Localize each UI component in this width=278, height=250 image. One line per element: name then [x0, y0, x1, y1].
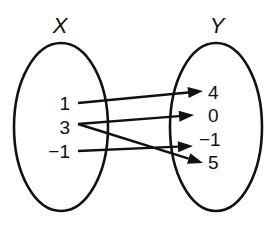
arrowhead-icon	[178, 141, 193, 152]
mapping-arrows	[78, 87, 203, 164]
domain-elements: 1 3 −1	[48, 93, 70, 162]
domain-element: −1	[48, 141, 70, 162]
mapping-diagram: X Y 1 3 −1 4 0 −1 5	[0, 0, 278, 250]
arrowhead-icon	[187, 153, 203, 164]
mapping-arrow-line	[78, 124, 189, 159]
mapping-arrow-line	[78, 116, 179, 124]
range-element: 0	[208, 105, 219, 126]
range-element: 4	[208, 82, 219, 103]
arrowhead-icon	[179, 111, 194, 122]
range-oval	[170, 43, 262, 211]
range-elements: 4 0 −1 5	[199, 82, 221, 173]
range-element: 5	[208, 152, 219, 173]
domain-element: 3	[59, 117, 70, 138]
domain-element: 1	[59, 93, 70, 114]
arrowhead-icon	[188, 87, 203, 98]
domain-set-label: X	[52, 13, 69, 38]
range-set-label: Y	[210, 13, 226, 38]
range-element: −1	[199, 129, 221, 150]
